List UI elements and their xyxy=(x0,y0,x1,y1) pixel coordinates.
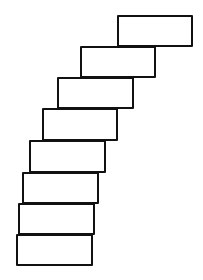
block-6 xyxy=(22,172,99,204)
block-7 xyxy=(18,203,95,235)
block-8 xyxy=(16,234,93,266)
block-3 xyxy=(57,77,134,109)
block-2 xyxy=(80,46,156,78)
block-5 xyxy=(29,140,106,173)
block-1 xyxy=(117,15,193,47)
block-stack-diagram xyxy=(0,0,203,280)
block-4 xyxy=(42,108,118,141)
